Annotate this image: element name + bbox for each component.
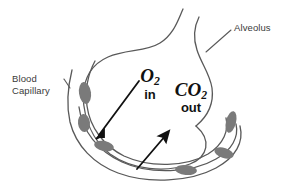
carbon-dioxide-subscript: 2 [201,89,207,102]
carbon-dioxide-element: CO [175,79,201,100]
oxygen-element: O [140,65,154,86]
blood-capillary-label: Blood Capillary [12,73,74,97]
alveolus-label: Alveolus [234,22,271,34]
oxygen-subscript: 2 [154,75,160,88]
carbon-dioxide-direction-label: out [164,101,218,115]
blood-cell [175,164,198,176]
gas-exchange-diagram: Blood Capillary Alveolus O2 in CO2 out [0,0,292,191]
alveolus-leader-line [206,30,231,52]
carbon-dioxide-label-group: CO2 out [164,80,218,115]
blood-cell [93,139,115,153]
blood-cell [78,81,93,104]
carbon-dioxide-formula: CO2 [164,80,218,99]
